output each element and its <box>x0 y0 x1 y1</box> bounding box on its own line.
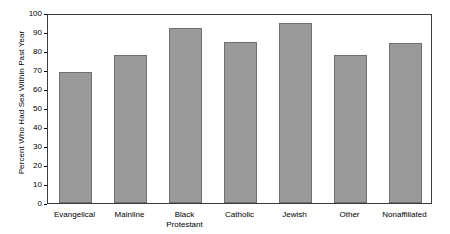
bar <box>59 72 92 203</box>
bar <box>224 42 257 204</box>
x-tick-label: Black Protestant <box>157 210 212 230</box>
bar <box>389 43 422 203</box>
y-tick-label: 40 <box>33 123 42 132</box>
bar-series <box>48 15 431 203</box>
x-tick-label: Evangelical <box>47 210 102 220</box>
bar <box>114 55 147 203</box>
y-tick-label: 30 <box>33 142 42 151</box>
y-tick-label: 0 <box>38 199 42 208</box>
x-axis-ticks: EvangelicalMainlineBlack ProtestantCatho… <box>47 204 432 234</box>
y-tick-label: 60 <box>33 85 42 94</box>
bar-chart-figure: Percent Who Had Sex Within Past Year 010… <box>0 0 450 234</box>
y-tick-label: 50 <box>33 104 42 113</box>
x-tick-label: Jewish <box>267 210 322 220</box>
y-tick-label: 20 <box>33 161 42 170</box>
x-tick-label: Catholic <box>212 210 267 220</box>
y-tick-label: 70 <box>33 66 42 75</box>
y-tick-label: 100 <box>29 9 42 18</box>
plot-area <box>47 14 432 204</box>
y-tick-label: 80 <box>33 47 42 56</box>
y-tick-label: 90 <box>33 28 42 37</box>
bar <box>169 28 202 203</box>
x-tick-label: Mainline <box>102 210 157 220</box>
x-tick-label: Nonaffiliated <box>377 210 432 220</box>
y-tick-label: 10 <box>33 180 42 189</box>
bar <box>334 55 367 203</box>
x-tick-label: Other <box>322 210 377 220</box>
y-axis-ticks: 0102030405060708090100 <box>26 14 47 204</box>
bar <box>279 23 312 204</box>
